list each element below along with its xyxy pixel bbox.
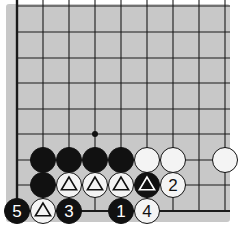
black-stone (83, 148, 108, 173)
star-point (92, 131, 98, 137)
move-number: 5 (12, 202, 21, 221)
white-stone (161, 148, 186, 173)
black-stone (109, 148, 134, 173)
white-stone (135, 148, 160, 173)
white-stone (213, 148, 238, 173)
move-number: 2 (168, 176, 177, 195)
move-number: 4 (142, 202, 151, 221)
move-number: 1 (116, 202, 125, 221)
black-stone (31, 173, 56, 198)
move-number: 3 (64, 202, 73, 221)
black-stone (31, 148, 56, 173)
go-diagram: 25314 (0, 0, 243, 227)
black-stone (57, 148, 82, 173)
